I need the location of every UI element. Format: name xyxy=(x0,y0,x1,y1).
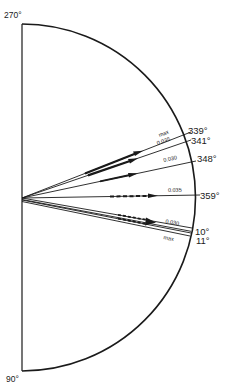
axis-label-90: 90° xyxy=(6,375,19,384)
angle-label-359: 359° xyxy=(200,191,220,201)
ray-341 xyxy=(22,140,191,198)
ray-10-11-dashed-arrows xyxy=(118,215,156,226)
annotation-359-value: 0.035 xyxy=(168,188,182,194)
axis-label-270: 270° xyxy=(4,11,22,20)
ray-10 xyxy=(22,198,192,231)
angle-label-341: 341° xyxy=(191,136,211,146)
polar-half-diagram xyxy=(0,0,231,385)
angle-label-11: 11° xyxy=(196,236,210,246)
angle-label-348: 348° xyxy=(197,154,217,164)
ray-359 xyxy=(22,194,200,199)
